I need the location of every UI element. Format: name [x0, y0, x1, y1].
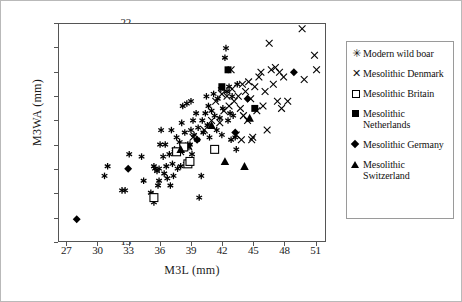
x-tick-mark — [284, 242, 285, 246]
square-filled-icon-glyph — [352, 110, 359, 117]
x-tick-label: 30 — [85, 245, 109, 256]
x-tick-mark — [66, 242, 67, 246]
x-tick-label: 45 — [241, 245, 265, 256]
x-tick-mark — [97, 242, 98, 246]
diamond-filled-icon — [351, 139, 362, 150]
square-filled-icon — [351, 108, 362, 119]
legend-item-label: Mesolithic Netherlands — [363, 108, 450, 130]
x-icon: ✕ — [351, 68, 362, 79]
x-tick-label: 36 — [148, 245, 172, 256]
scatter-canvas — [59, 24, 325, 241]
legend-item[interactable]: Mesolithic Switzerland — [351, 159, 450, 181]
figure-container: 13141516171819202122 M3WA (mm) 273033363… — [0, 0, 462, 302]
legend-item-label: Mesolithic Denmark — [363, 68, 450, 79]
legend-item[interactable]: Mesolithic Germany — [351, 139, 450, 150]
x-tick-label: 33 — [117, 245, 141, 256]
x-tick-mark — [222, 242, 223, 246]
diamond-filled-icon-glyph — [351, 140, 359, 148]
legend-item[interactable]: Mesolithic Netherlands — [351, 108, 450, 130]
x-tick-label: 48 — [272, 245, 296, 256]
legend: ✳Modern wild boar✕Mesolithic DenmarkMeso… — [346, 41, 454, 219]
x-tick-mark — [129, 242, 130, 246]
x-tick-label: 51 — [304, 245, 328, 256]
x-tick-label: 42 — [210, 245, 234, 256]
asterisk-icon-glyph: ✳ — [351, 48, 362, 59]
legend-item[interactable]: ✕Mesolithic Denmark — [351, 68, 450, 79]
legend-item-label: Mesolithic Britain — [363, 88, 450, 99]
x-tick-label: 39 — [179, 245, 203, 256]
triangle-filled-icon — [351, 159, 362, 170]
plot-area — [58, 23, 326, 242]
x-tick-mark — [160, 242, 161, 246]
legend-item[interactable]: ✳Modern wild boar — [351, 48, 450, 59]
x-tick-label: 27 — [54, 245, 78, 256]
y-axis-label: M3WA (mm) — [30, 53, 45, 173]
legend-item-label: Mesolithic Switzerland — [363, 159, 450, 181]
y-tick-mark — [54, 242, 58, 243]
x-axis-label: M3L (mm) — [58, 263, 326, 278]
series-modern-wild-boar — [102, 45, 240, 206]
asterisk-icon: ✳ — [351, 48, 362, 59]
series-mesolithic-denmark — [177, 25, 320, 155]
legend-item[interactable]: Mesolithic Britain — [351, 88, 450, 99]
x-tick-mark — [253, 242, 254, 246]
legend-item-label: Mesolithic Germany — [363, 139, 450, 150]
legend-item-label: Modern wild boar — [363, 48, 450, 59]
triangle-filled-icon-glyph — [351, 161, 359, 168]
square-open-icon — [351, 88, 362, 99]
square-open-icon-glyph — [352, 90, 360, 98]
x-icon-glyph: ✕ — [351, 68, 362, 79]
x-tick-mark — [316, 242, 317, 246]
x-tick-mark — [191, 242, 192, 246]
